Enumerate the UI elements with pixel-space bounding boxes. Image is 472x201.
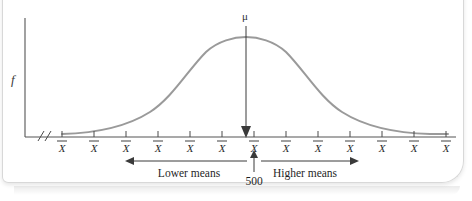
figure-container: f μ bbox=[0, 0, 472, 201]
lower-means-label: Lower means bbox=[158, 167, 221, 179]
x-axis-ticks bbox=[62, 131, 446, 137]
xbar-label-9: X bbox=[313, 141, 323, 154]
lower-means-arrow bbox=[125, 157, 247, 165]
xbar-label-12: X bbox=[409, 141, 419, 154]
higher-means-arrow bbox=[261, 157, 359, 165]
y-axis-label: f bbox=[11, 72, 17, 87]
normal-curve bbox=[62, 37, 448, 134]
xbar-label-2: X bbox=[89, 141, 99, 154]
xbar-text: X bbox=[346, 142, 355, 154]
higher-means-label: Higher means bbox=[273, 167, 338, 180]
xbar-text: X bbox=[186, 142, 195, 154]
xbar-label-4: X bbox=[153, 141, 163, 154]
mu-label: μ bbox=[242, 10, 248, 22]
xbar-label-1: X bbox=[57, 141, 67, 154]
xbar-label-6: X bbox=[217, 141, 227, 154]
xbar-text: X bbox=[282, 142, 291, 154]
xbar-text: X bbox=[410, 142, 419, 154]
xbar-label-8: X bbox=[281, 141, 291, 154]
xbar-text: X bbox=[154, 142, 163, 154]
xbar-text: X bbox=[378, 142, 387, 154]
xbar-label-10: X bbox=[345, 141, 355, 154]
xbar-text: X bbox=[442, 142, 451, 154]
xbar-text: X bbox=[218, 142, 227, 154]
xbar-label-3: X bbox=[121, 141, 131, 154]
axis-break-icon bbox=[38, 131, 51, 141]
xbar-label-5: X bbox=[185, 141, 195, 154]
xbar-text: X bbox=[58, 142, 67, 154]
xbar-label-13: X bbox=[441, 141, 451, 154]
mu-arrow bbox=[241, 26, 251, 138]
xbar-text: X bbox=[314, 142, 323, 154]
xbar-text: X bbox=[90, 142, 99, 154]
xbar-text: X bbox=[122, 142, 131, 154]
xbar-label-11: X bbox=[377, 141, 387, 154]
sampling-distribution-figure: f μ bbox=[0, 0, 472, 201]
center-value-label: 500 bbox=[245, 175, 263, 187]
